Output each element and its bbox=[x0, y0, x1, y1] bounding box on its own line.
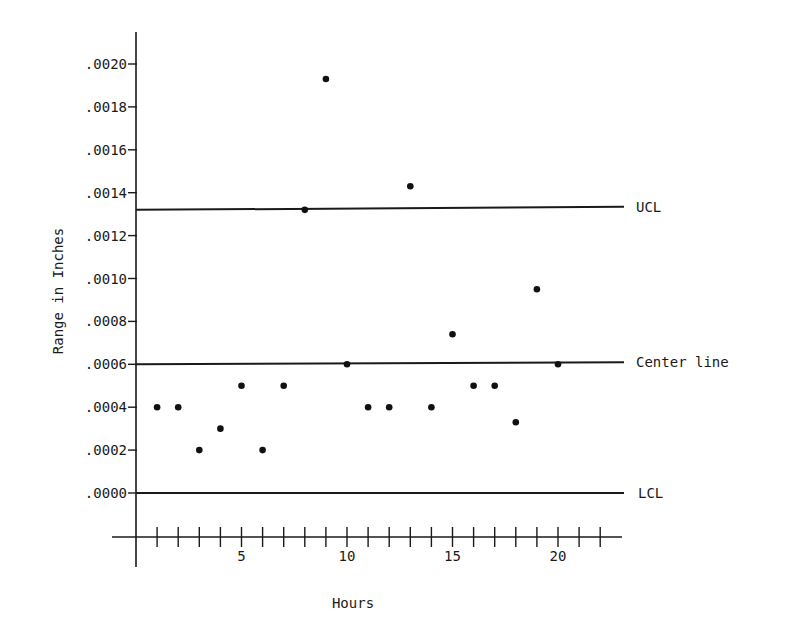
data-point bbox=[470, 382, 477, 389]
y-tick-label: .0006 bbox=[85, 356, 127, 372]
x-axis: 5101520 bbox=[112, 527, 622, 564]
control-chart: .0000.0002.0004.0006.0008.0010.0012.0014… bbox=[0, 0, 792, 624]
data-point bbox=[386, 404, 393, 411]
data-point bbox=[449, 331, 456, 338]
reference-line-label: Center line bbox=[636, 354, 729, 370]
y-tick-label: .0004 bbox=[85, 399, 127, 415]
reference-line-label: LCL bbox=[638, 485, 663, 501]
y-tick-label: .0012 bbox=[85, 228, 127, 244]
data-point bbox=[534, 286, 541, 293]
data-point bbox=[344, 361, 351, 368]
reference-line-ucl bbox=[136, 207, 624, 210]
data-point bbox=[491, 382, 498, 389]
data-point bbox=[513, 419, 520, 426]
data-point bbox=[323, 76, 330, 83]
data-points bbox=[154, 76, 562, 454]
y-axis: .0000.0002.0004.0006.0008.0010.0012.0014… bbox=[85, 32, 137, 567]
x-tick-label: 15 bbox=[444, 548, 461, 564]
y-tick-label: .0018 bbox=[85, 99, 127, 115]
x-tick-label: 5 bbox=[237, 548, 245, 564]
y-axis-title: Range in Inches bbox=[50, 228, 66, 354]
x-tick-label: 10 bbox=[339, 548, 356, 564]
y-tick-label: .0016 bbox=[85, 142, 127, 158]
data-point bbox=[280, 382, 287, 389]
y-tick-label: .0008 bbox=[85, 313, 127, 329]
y-tick-label: .0010 bbox=[85, 271, 127, 287]
data-point bbox=[555, 361, 562, 368]
data-point bbox=[238, 382, 245, 389]
reference-line-label: UCL bbox=[636, 199, 661, 215]
data-point bbox=[154, 404, 161, 411]
data-point bbox=[175, 404, 182, 411]
x-tick-label: 20 bbox=[550, 548, 567, 564]
reference-line-center-line bbox=[136, 362, 624, 364]
y-tick-label: .0014 bbox=[85, 185, 127, 201]
data-point bbox=[428, 404, 435, 411]
data-point bbox=[365, 404, 372, 411]
control-limit-lines: UCLCenter lineLCL bbox=[136, 199, 729, 501]
data-point bbox=[302, 207, 309, 214]
y-tick-label: .0000 bbox=[85, 485, 127, 501]
data-point bbox=[196, 447, 203, 454]
data-point bbox=[259, 447, 266, 454]
y-tick-label: .0002 bbox=[85, 442, 127, 458]
x-axis-title: Hours bbox=[332, 595, 374, 611]
data-point bbox=[217, 425, 224, 432]
data-point bbox=[407, 183, 414, 190]
y-tick-label: .0020 bbox=[85, 56, 127, 72]
